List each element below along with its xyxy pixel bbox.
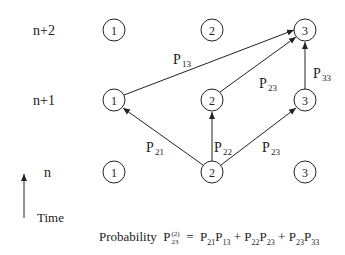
markov-transition-diagram: n+2 n+1 n P13 P23 P33 P21 P22 P23 1 2 3 … — [0, 0, 345, 255]
row-label-n: n — [44, 165, 51, 180]
formula-prefix: Probability — [99, 229, 157, 244]
edge-label-p23-top: P23 — [259, 76, 278, 93]
svg-text:3: 3 — [302, 166, 308, 180]
svg-text:2: 2 — [209, 94, 215, 108]
time-axis-label: Time — [37, 210, 64, 225]
edge-label-p13: P13 — [173, 52, 192, 69]
edge-label-p23-bottom: P23 — [262, 140, 281, 157]
edge-p23-top — [220, 37, 296, 92]
svg-text:P: P — [214, 140, 222, 155]
svg-text:1: 1 — [111, 94, 117, 108]
row-label-n-plus-1: n+1 — [33, 93, 55, 108]
svg-text:33: 33 — [322, 73, 332, 83]
svg-text:13: 13 — [182, 59, 192, 69]
edge-p23-bottom — [221, 108, 296, 165]
edge-label-p33: P33 — [313, 66, 332, 83]
svg-text:23: 23 — [268, 83, 278, 93]
state-node-n-3: 3 — [294, 161, 316, 183]
formula-term-2: P22P23 — [244, 229, 274, 244]
svg-text:P: P — [146, 140, 154, 155]
svg-text:2: 2 — [209, 24, 215, 38]
svg-text:P: P — [313, 66, 321, 81]
formula-term-1: P21P13 — [200, 229, 230, 244]
state-node-n-2: 2 — [201, 161, 223, 183]
svg-text:23: 23 — [271, 147, 281, 157]
svg-text:P: P — [173, 52, 181, 67]
edge-label-p21: P21 — [146, 140, 164, 157]
svg-text:22: 22 — [223, 147, 232, 157]
state-node-n-1: 1 — [103, 161, 125, 183]
svg-text:1: 1 — [111, 24, 117, 38]
state-node-n2-1: 1 — [103, 19, 125, 41]
state-node-n1-3: 3 — [294, 89, 316, 111]
state-node-n2-3: 3 — [294, 19, 316, 41]
svg-text:1: 1 — [111, 166, 117, 180]
svg-text:2: 2 — [209, 166, 215, 180]
probability-formula: Probability P(2)23 = P21P13 + P22P23 + P… — [99, 229, 319, 247]
svg-text:P: P — [259, 76, 267, 91]
formula-equals: = — [186, 229, 193, 244]
state-node-n2-2: 2 — [201, 19, 223, 41]
svg-text:P: P — [262, 140, 270, 155]
edge-label-p22: P22 — [214, 140, 232, 157]
state-node-n1-1: 1 — [103, 89, 125, 111]
formula-term-3: P23P33 — [289, 229, 319, 244]
svg-text:3: 3 — [302, 24, 308, 38]
svg-text:3: 3 — [302, 94, 308, 108]
row-label-n-plus-2: n+2 — [33, 23, 55, 38]
state-node-n1-2: 2 — [201, 89, 223, 111]
svg-text:21: 21 — [155, 147, 164, 157]
formula-lhs: P(2)23 — [163, 229, 179, 244]
